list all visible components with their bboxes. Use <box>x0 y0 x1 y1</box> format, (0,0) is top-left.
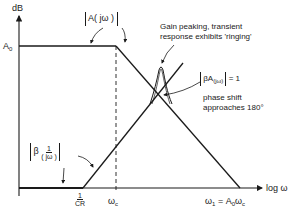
omega-c-sub: c <box>115 201 118 207</box>
x-axis-label: log ω <box>266 183 288 193</box>
phase-annotation: phase shift approaches 180° <box>203 93 264 113</box>
loop-gain-beta: βA <box>203 74 213 83</box>
open-loop-label-arrow-left <box>91 28 103 43</box>
loop-gain-eq: = 1 <box>229 74 240 83</box>
one-over-cr-denominator: CR <box>75 200 85 207</box>
omega-1-tail-sub: c <box>242 201 245 207</box>
feedback-label-arrow-flat <box>63 168 64 183</box>
omega-c-label: ωc <box>108 196 118 209</box>
one-over-cr-label: 1 CR <box>75 192 85 207</box>
abs-bar-right <box>225 72 226 86</box>
abs-bar-left <box>85 12 86 26</box>
feedback-denominator: ( jω ) <box>41 153 57 160</box>
abs-bar-right <box>117 12 118 26</box>
y-axis-label: dB <box>12 3 23 13</box>
phase-line-2: approaches 180° <box>203 103 264 113</box>
abs-bar-left <box>30 143 31 161</box>
peaking-line-2: response exhibits 'ringing' <box>160 32 252 42</box>
open-loop-rolloff-segment <box>116 46 240 188</box>
phase-line-1: phase shift <box>203 93 264 103</box>
peaking-arrow <box>162 45 174 63</box>
open-loop-text: A( jω ) <box>88 13 114 23</box>
feedback-beta: β <box>34 146 39 156</box>
feedback-fraction: 1 ( jω ) <box>41 145 57 160</box>
a0-sub: 0 <box>9 46 12 52</box>
loop-gain-arrow <box>164 82 200 95</box>
one-over-cr-numerator: 1 <box>77 192 83 200</box>
omega-1-label: ω1 = A0ωc <box>205 196 245 209</box>
open-loop-label: A( jω ) <box>85 12 118 26</box>
feedback-numerator: 1 <box>46 145 52 153</box>
omega-1-tail: ω <box>235 196 242 206</box>
peaking-annotation: Gain peaking, transient response exhibit… <box>160 22 252 42</box>
feedback-rising-segment <box>83 63 183 188</box>
one-over-cr-fraction: 1 CR <box>75 192 85 207</box>
omega-1-eq: = A <box>215 196 231 206</box>
a0-level-label: A0 <box>3 41 12 54</box>
loop-gain-sub: (jω) <box>213 78 223 84</box>
loop-gain-annotation: βA(jω) = 1 <box>200 72 240 86</box>
omega-c-main: ω <box>108 196 115 206</box>
omega-1-main: ω <box>205 196 212 206</box>
feedback-label-arrow-rising <box>78 156 93 167</box>
open-loop-label-arrow-right <box>122 28 125 42</box>
abs-bar-right <box>59 143 60 161</box>
peaking-line-1: Gain peaking, transient <box>160 22 252 32</box>
feedback-label: β 1 ( jω ) <box>30 143 60 161</box>
abs-bar-left <box>200 72 201 86</box>
